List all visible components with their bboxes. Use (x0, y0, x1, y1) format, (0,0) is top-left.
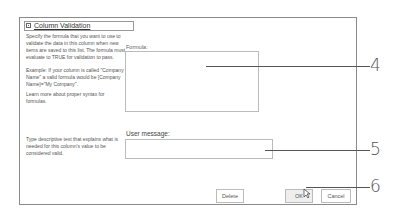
formula-example: Example: If your column is called "Compa… (26, 67, 126, 88)
callout-number-5: 5 (370, 139, 381, 159)
collapse-icon[interactable] (26, 23, 31, 28)
section-title[interactable]: Column Validation (34, 22, 90, 29)
callout-line-6 (306, 187, 370, 188)
section-header[interactable]: Column Validation (26, 22, 90, 29)
cancel-button[interactable]: Cancel (321, 189, 351, 203)
callout-number-6: 6 (370, 176, 381, 196)
mouse-cursor-icon (303, 188, 311, 199)
learn-more-link[interactable]: Learn more about proper syntax for formu… (26, 91, 126, 105)
column-validation-panel: Column Validation Specify the formula th… (19, 17, 357, 205)
callout-line-5 (265, 150, 370, 151)
callout-line-4 (206, 66, 370, 67)
callout-number-4: 4 (370, 55, 381, 75)
user-message-textarea[interactable] (125, 139, 273, 159)
formula-textarea[interactable] (125, 51, 259, 112)
user-message-label: User message: (126, 130, 170, 137)
formula-description: Specify the formula that you want to use… (26, 33, 126, 61)
delete-button[interactable]: Delete (216, 189, 244, 203)
user-message-description: Type descriptive text that explains what… (26, 136, 126, 157)
formula-label: Formula: (126, 44, 148, 50)
